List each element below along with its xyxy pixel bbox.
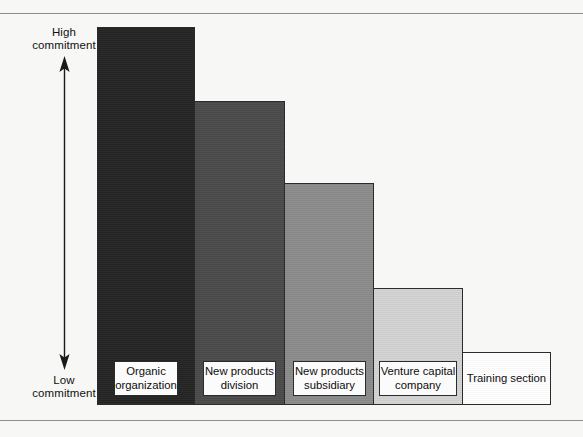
bar-label-venture-capital-company: Venture capital company	[379, 361, 457, 396]
bar-label-organic-organization: Organic organization	[114, 361, 178, 396]
bar-organic-organization	[97, 27, 195, 405]
bar-label-training-section: Training section	[462, 352, 551, 405]
bar-plot-area: Organic organization New products divisi…	[0, 0, 583, 437]
chart-canvas: High commitment Low commitment Organic o…	[0, 0, 583, 437]
bar-label-new-products-subsidiary: New products subsidiary	[293, 361, 366, 396]
bar-label-new-products-division: New products division	[203, 361, 276, 396]
bar-new-products-division	[194, 101, 285, 405]
